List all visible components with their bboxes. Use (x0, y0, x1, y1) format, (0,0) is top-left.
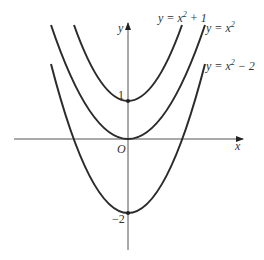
vertex-dot-1 (126, 99, 130, 103)
label-x-squared-plus-1: y = x2 + 1 (157, 10, 207, 25)
x-axis-label: x (234, 139, 241, 153)
y-axis-label: y (117, 21, 124, 35)
label-x-squared: y = x2 (205, 20, 235, 35)
parabola-diagram: y x O 1 −2 y = x2 + 1 y = x2 y = x2 − 2 (0, 0, 264, 260)
tick-label-minus-two: −2 (112, 212, 125, 226)
tick-label-one: 1 (118, 88, 124, 102)
vertex-dot-minus-2 (126, 211, 130, 215)
origin-label: O (117, 142, 126, 156)
label-x-squared-minus-2: y = x2 − 2 (205, 58, 255, 73)
